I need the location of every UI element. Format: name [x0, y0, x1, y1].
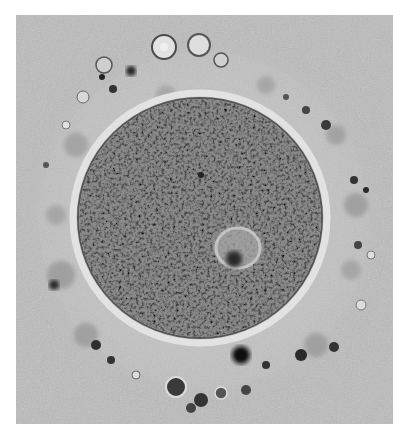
nucleolus	[226, 251, 242, 267]
ooplasm	[79, 99, 321, 337]
oocyte-micrograph	[16, 15, 393, 424]
germinal-vesicle	[214, 226, 262, 270]
micrograph-frame	[16, 15, 393, 424]
